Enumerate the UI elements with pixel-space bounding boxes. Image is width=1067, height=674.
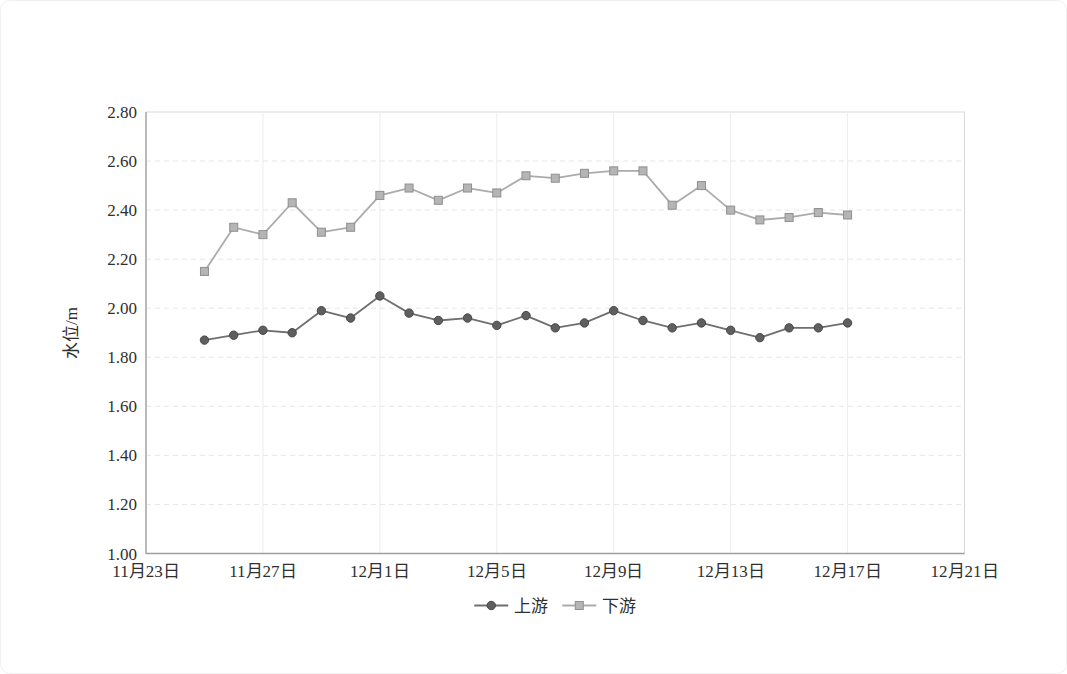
downstream-data-point-marker bbox=[814, 209, 822, 217]
downstream-data-point-marker bbox=[756, 216, 764, 224]
upstream-data-point-marker bbox=[843, 319, 851, 327]
upstream-data-point-marker bbox=[405, 309, 413, 317]
legend-upstream-marker bbox=[487, 601, 495, 609]
downstream-data-point-marker bbox=[200, 267, 208, 275]
y-tick-label: 1.20 bbox=[107, 495, 137, 514]
upstream-data-point-marker bbox=[814, 324, 822, 332]
downstream-data-point-marker bbox=[668, 201, 676, 209]
x-tick-label: 12月21日 bbox=[931, 562, 999, 581]
upstream-data-point-marker bbox=[229, 331, 237, 339]
upstream-data-point-marker bbox=[434, 316, 442, 324]
upstream-data-point-marker bbox=[610, 306, 618, 314]
upstream-data-point-marker bbox=[200, 336, 208, 344]
y-tick-label: 2.00 bbox=[107, 299, 137, 318]
x-tick-label: 12月5日 bbox=[467, 562, 527, 581]
upstream-data-point-marker bbox=[317, 306, 325, 314]
y-tick-label: 1.60 bbox=[107, 397, 137, 416]
y-tick-label: 2.60 bbox=[107, 152, 137, 171]
upstream-data-point-marker bbox=[288, 329, 296, 337]
x-tick-label: 12月13日 bbox=[697, 562, 765, 581]
upstream-data-point-marker bbox=[522, 311, 530, 319]
x-tick-label: 12月9日 bbox=[584, 562, 644, 581]
y-axis-title: 水位/m bbox=[62, 307, 81, 359]
x-tick-label: 12月17日 bbox=[814, 562, 882, 581]
chart-canvas: 1.001.201.401.601.802.002.202.402.602.80… bbox=[1, 1, 1067, 674]
y-tick-label: 2.40 bbox=[107, 201, 137, 220]
downstream-data-point-marker bbox=[259, 231, 267, 239]
legend-downstream-marker bbox=[575, 602, 583, 610]
x-tick-label: 11月23日 bbox=[112, 562, 179, 581]
water-level-line-chart: 1.001.201.401.601.802.002.202.402.602.80… bbox=[0, 0, 1067, 674]
downstream-data-point-marker bbox=[844, 211, 852, 219]
upstream-data-point-marker bbox=[580, 319, 588, 327]
downstream-data-point-marker bbox=[288, 199, 296, 207]
x-tick-label: 11月27日 bbox=[229, 562, 296, 581]
upstream-data-point-marker bbox=[726, 326, 734, 334]
downstream-data-point-marker bbox=[434, 196, 442, 204]
downstream-series-line bbox=[204, 171, 847, 272]
y-tick-label: 1.80 bbox=[107, 348, 137, 367]
legend-downstream-label: 下游 bbox=[602, 597, 636, 616]
downstream-data-point-marker bbox=[727, 206, 735, 214]
downstream-data-point-marker bbox=[551, 174, 559, 182]
upstream-data-point-marker bbox=[697, 319, 705, 327]
upstream-data-point-marker bbox=[668, 324, 676, 332]
upstream-data-point-marker bbox=[756, 333, 764, 341]
upstream-data-point-marker bbox=[376, 292, 384, 300]
downstream-data-point-marker bbox=[376, 191, 384, 199]
downstream-data-point-marker bbox=[405, 184, 413, 192]
downstream-data-point-marker bbox=[639, 167, 647, 175]
upstream-data-point-marker bbox=[639, 316, 647, 324]
upstream-data-point-marker bbox=[259, 326, 267, 334]
downstream-data-point-marker bbox=[493, 189, 501, 197]
y-tick-label: 1.40 bbox=[107, 446, 137, 465]
upstream-data-point-marker bbox=[493, 321, 501, 329]
upstream-data-point-marker bbox=[463, 314, 471, 322]
upstream-data-point-marker bbox=[551, 324, 559, 332]
downstream-data-point-marker bbox=[230, 223, 238, 231]
downstream-data-point-marker bbox=[317, 228, 325, 236]
downstream-data-point-marker bbox=[464, 184, 472, 192]
upstream-data-point-marker bbox=[785, 324, 793, 332]
downstream-data-point-marker bbox=[347, 223, 355, 231]
downstream-data-point-marker bbox=[580, 169, 588, 177]
legend-upstream-label: 上游 bbox=[514, 597, 548, 616]
downstream-data-point-marker bbox=[522, 172, 530, 180]
downstream-data-point-marker bbox=[697, 182, 705, 190]
x-tick-label: 12月1日 bbox=[350, 562, 410, 581]
y-tick-label: 2.80 bbox=[107, 103, 137, 122]
downstream-data-point-marker bbox=[785, 213, 793, 221]
y-tick-label: 2.20 bbox=[107, 250, 137, 269]
upstream-data-point-marker bbox=[346, 314, 354, 322]
downstream-data-point-marker bbox=[610, 167, 618, 175]
